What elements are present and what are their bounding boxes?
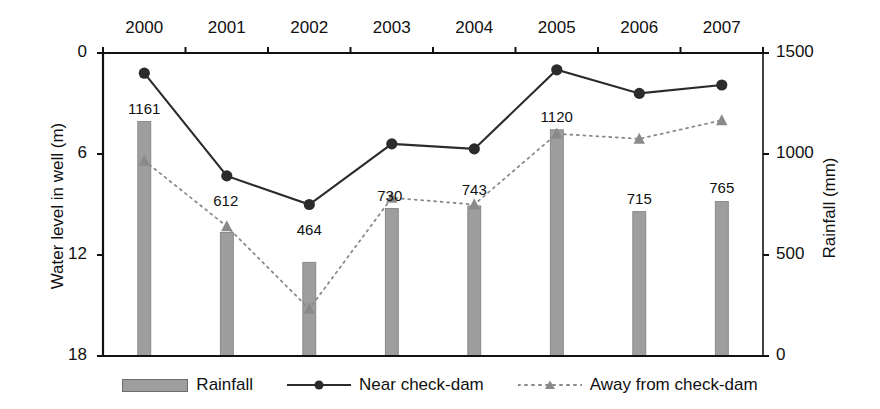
marker-near-2005 bbox=[551, 64, 562, 75]
legend-label-away-from-check-dam: Away from check-dam bbox=[590, 375, 758, 395]
legend-item-near-check-dam: Near check-dam bbox=[287, 375, 484, 395]
bar-2004 bbox=[468, 206, 481, 356]
rainfall-swatch-icon bbox=[122, 379, 188, 392]
marker-away-2007 bbox=[716, 114, 727, 125]
bar-value-label-2007: 765 bbox=[687, 179, 757, 196]
bar-2007 bbox=[715, 202, 728, 357]
y-tick-label-right-500: 500 bbox=[776, 244, 830, 264]
marker-near-2007 bbox=[716, 79, 727, 90]
marker-near-2000 bbox=[139, 68, 150, 79]
bar-value-label-2002: 464 bbox=[274, 221, 344, 238]
y-tick-label-left-12: 12 bbox=[45, 244, 87, 264]
legend-item-rainfall: Rainfall bbox=[122, 375, 253, 395]
x-tick-label-2003: 2003 bbox=[352, 18, 432, 38]
x-tick-label-2002: 2002 bbox=[269, 18, 349, 38]
bar-value-label-2006: 715 bbox=[604, 190, 674, 207]
plot-area bbox=[0, 0, 880, 409]
bar-value-label-2003: 730 bbox=[355, 187, 425, 204]
bar-2003 bbox=[385, 209, 398, 357]
bar-2006 bbox=[633, 212, 646, 356]
x-tick-label-2004: 2004 bbox=[434, 18, 514, 38]
marker-near-2006 bbox=[634, 88, 645, 99]
x-tick-label-2005: 2005 bbox=[517, 18, 597, 38]
y-tick-label-right-0: 0 bbox=[776, 345, 830, 365]
marker-away-2001 bbox=[221, 220, 232, 231]
x-tick-label-2007: 2007 bbox=[682, 18, 762, 38]
x-tick-label-2001: 2001 bbox=[187, 18, 267, 38]
line-circle-marker-icon bbox=[287, 379, 351, 391]
legend-item-away-from-check-dam: Away from check-dam bbox=[518, 375, 758, 395]
bar-value-label-2004: 743 bbox=[439, 181, 509, 198]
bar-2001 bbox=[220, 232, 233, 356]
x-tick-label-2000: 2000 bbox=[104, 18, 184, 38]
marker-near-2004 bbox=[469, 143, 480, 154]
chart-legend: Rainfall Near check-dam Away from check-… bbox=[0, 368, 880, 402]
legend-label-rainfall: Rainfall bbox=[196, 375, 253, 395]
bar-value-label-2001: 612 bbox=[191, 192, 261, 209]
marker-near-2001 bbox=[221, 170, 232, 181]
chart-figure: Water level in well (m) Rainfall (mm) Ra… bbox=[0, 0, 880, 409]
bar-value-label-2000: 1161 bbox=[109, 100, 179, 117]
y-tick-label-left-0: 0 bbox=[45, 42, 87, 62]
y-axis-left-title: Water level in well (m) bbox=[48, 66, 68, 346]
marker-near-2003 bbox=[386, 138, 397, 149]
y-tick-label-right-1000: 1000 bbox=[776, 143, 830, 163]
y-tick-label-left-18: 18 bbox=[45, 345, 87, 365]
dotted-triangle-marker-icon bbox=[518, 379, 582, 391]
legend-label-near-check-dam: Near check-dam bbox=[359, 375, 484, 395]
y-tick-label-right-1500: 1500 bbox=[776, 42, 830, 62]
y-tick-label-left-6: 6 bbox=[45, 143, 87, 163]
bar-value-label-2005: 1120 bbox=[522, 108, 592, 125]
y-axis-right-title: Rainfall (mm) bbox=[820, 68, 840, 348]
bar-2005 bbox=[550, 130, 563, 356]
marker-near-2002 bbox=[304, 199, 315, 210]
x-tick-label-2006: 2006 bbox=[599, 18, 679, 38]
